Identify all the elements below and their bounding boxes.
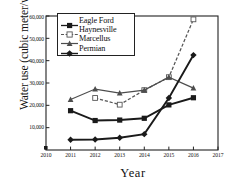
legend-item-permian: Permian (60, 44, 131, 53)
legend-label: Marcellus (79, 34, 110, 43)
legend-item-marcellus: Marcellus (60, 34, 131, 43)
legend-marker-icon (60, 25, 79, 34)
chart-legend: Eagle Ford Haynesville Marcellus Permian (57, 13, 135, 56)
legend-marker-icon (60, 16, 79, 25)
chart-figure: Water use (cubic meter/well) 60,000 50,0… (0, 0, 240, 187)
x-axis-title: Year (46, 166, 220, 181)
legend-item-haynesville: Haynesville (60, 25, 131, 34)
series-marcellus (68, 74, 197, 102)
series-eagle-ford (68, 95, 196, 123)
legend-label: Haynesville (79, 25, 116, 34)
legend-item-eagle-ford: Eagle Ford (60, 16, 131, 25)
legend-label: Eagle Ford (79, 16, 114, 25)
legend-label: Permian (79, 44, 105, 53)
legend-marker-icon (60, 34, 79, 43)
legend-marker-icon (60, 44, 79, 53)
series-permian (67, 52, 196, 143)
